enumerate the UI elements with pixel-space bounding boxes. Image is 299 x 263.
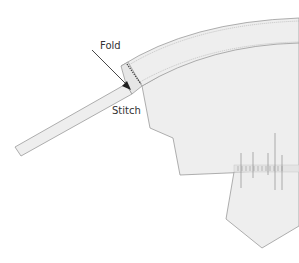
stitch-label: Stitch [112, 105, 141, 116]
lower-pointed-piece [226, 170, 299, 248]
folded-strip [15, 84, 132, 156]
seam-binding [234, 165, 299, 172]
diagram-svg [0, 0, 299, 263]
sewing-diagram: Fold Stitch [0, 0, 299, 263]
fold-label: Fold [100, 40, 121, 51]
